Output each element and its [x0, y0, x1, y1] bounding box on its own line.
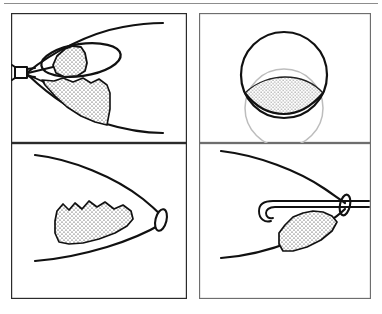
figure-plate [0, 0, 382, 314]
panel-top-left [11, 13, 187, 143]
panel-bottom-left [11, 143, 187, 299]
panel-border [200, 144, 371, 299]
panel-bottom-left-drawing [11, 143, 187, 299]
panel-bottom-right [199, 143, 371, 299]
panel-top-right-drawing [199, 13, 371, 143]
panel-top-right [199, 13, 371, 143]
panel-top-left-drawing [11, 13, 187, 143]
panel-bottom-right-drawing [199, 143, 371, 299]
panel-grid [0, 0, 382, 314]
